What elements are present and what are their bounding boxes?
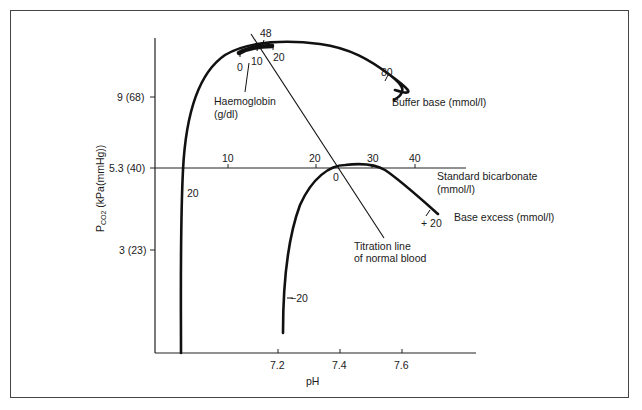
y-axis-label-suffix: (kPa(mmHg))	[94, 145, 106, 211]
buffer-base-mark-80: 80	[381, 66, 393, 79]
base-excess-mark-minus-20: −20	[290, 292, 308, 305]
buffer-base-label: Buffer base (mmol/l)	[392, 96, 486, 109]
x-tick-label-7-4: 7.4	[332, 359, 347, 372]
base-excess-mark-plus-20: + 20	[421, 217, 442, 230]
buffer-base-mark-48: 48	[260, 27, 272, 40]
y-axis-label-subscript: CO2	[100, 211, 107, 225]
bicarbonate-label-line1: Standard bicarbonate	[437, 170, 537, 183]
bicarbonate-label-line2: (mmol/l)	[437, 183, 475, 196]
y-tick-label-9: 9 (68)	[117, 91, 144, 104]
haemoglobin-label-line2: (g/dl)	[214, 108, 238, 121]
bicarbonate-tick-10: 10	[222, 152, 234, 165]
buffer-base-mark-20: 20	[187, 187, 199, 200]
haemoglobin-label-line1: Haemoglobin	[214, 95, 276, 108]
titration-line-label-line2: of normal blood	[354, 252, 426, 265]
haemoglobin-pointer	[245, 63, 249, 92]
haemoglobin-mark-20: 20	[273, 51, 285, 64]
y-axis-label: PCO2 (kPa(mmHg))	[94, 145, 107, 232]
y-axis-label-prefix: P	[94, 225, 106, 232]
buffer-base-curve	[181, 42, 409, 353]
base-excess-label: Base excess (mmol/l)	[454, 211, 554, 224]
bicarbonate-tick-30: 30	[367, 152, 379, 165]
bicarbonate-tick-40: 40	[409, 152, 421, 165]
x-tick-label-7-2: 7.2	[270, 359, 285, 372]
y-tick-label-3: 3 (23)	[119, 244, 146, 257]
haemoglobin-mark-10: 10	[251, 55, 263, 68]
x-tick-label-7-6: 7.6	[394, 359, 409, 372]
haemoglobin-mark-0: 0	[237, 61, 243, 74]
base-excess-mark-0: 0	[333, 171, 339, 184]
titration-line	[251, 34, 384, 238]
x-axis-label: pH	[306, 375, 319, 388]
bicarbonate-tick-20: 20	[309, 152, 321, 165]
y-tick-label-5-3: 5.3 (40)	[109, 162, 145, 175]
